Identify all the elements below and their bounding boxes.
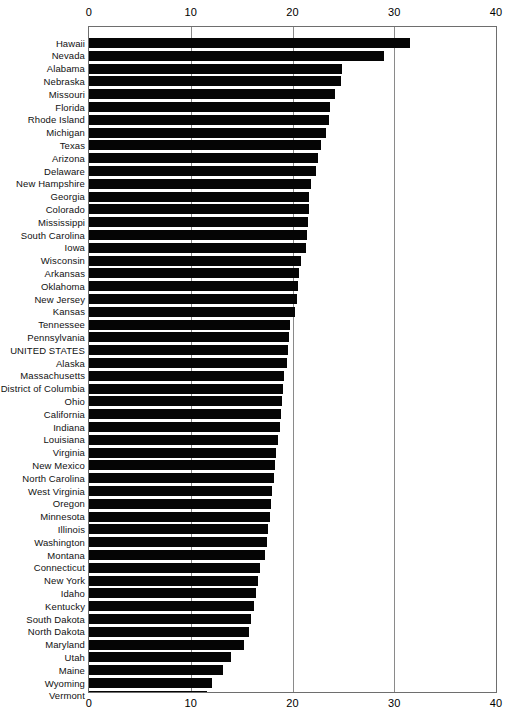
bar-row [89,422,280,432]
bar [89,332,289,342]
category-label: South Dakota [0,614,85,625]
bar-row [89,499,271,509]
x-tick-label: 20 [278,6,308,19]
bar [89,614,251,624]
bar [89,102,330,112]
category-label: Montana [0,550,85,561]
bar-row [89,550,265,560]
bar [89,678,212,688]
x-tick-label: 30 [379,6,409,19]
bar-row [89,601,254,611]
category-label: Kansas [0,306,85,317]
bar [89,524,268,534]
x-tick-label: 10 [176,6,206,19]
category-label: Wisconsin [0,255,85,266]
bar-row [89,332,289,342]
category-label: West Virginia [0,486,85,497]
category-label: Florida [0,102,85,113]
category-label: Colorado [0,204,85,215]
category-label: California [0,409,85,420]
category-label: Michigan [0,127,85,138]
bar [89,166,316,176]
plot-area [88,26,497,693]
bar-row [89,115,329,125]
bar [89,51,384,61]
category-label: North Dakota [0,626,85,637]
x-tick-label: 40 [481,6,511,19]
bar-row [89,396,282,406]
bar [89,576,258,586]
category-label: North Carolina [0,473,85,484]
bar-row [89,448,276,458]
category-label: New Hampshire [0,178,85,189]
x-tick-label: 40 [481,697,511,710]
category-label: Missouri [0,89,85,100]
category-label: Nebraska [0,76,85,87]
bar-row [89,204,309,214]
bar [89,204,309,214]
x-tick-label: 0 [74,697,104,710]
category-label: Tennessee [0,319,85,330]
bar-row [89,128,326,138]
category-label: Alaska [0,358,85,369]
category-label: Louisiana [0,434,85,445]
category-label: Connecticut [0,562,85,573]
category-label: Nevada [0,50,85,61]
category-label: Arkansas [0,268,85,279]
bar-row [89,345,288,355]
bar [89,384,283,394]
category-label: Alabama [0,63,85,74]
bar-row [89,512,270,522]
category-label: Virginia [0,447,85,458]
bar-row [89,38,410,48]
x-axis-labels-bottom: 010203040 [0,697,514,713]
bar-row [89,76,341,86]
bar-row [89,294,297,304]
bar-row [89,102,330,112]
bar-row [89,281,298,291]
category-axis-labels: HawaiiNevadaAlabamaNebraskaMissouriFlori… [0,26,85,693]
bar [89,230,307,240]
bar [89,115,329,125]
bar [89,128,326,138]
bar-row [89,486,272,496]
bar-row [89,614,251,624]
bar-row [89,524,268,534]
category-label: Texas [0,140,85,151]
category-label: Pennsylvania [0,332,85,343]
x-tick-label: 0 [74,6,104,19]
bar [89,256,301,266]
bar [89,396,282,406]
category-label: Mississippi [0,217,85,228]
bar [89,550,265,560]
category-label: Kentucky [0,601,85,612]
category-label: Iowa [0,242,85,253]
bar-row [89,179,311,189]
bar-row [89,652,231,662]
bar [89,294,297,304]
bar [89,217,308,227]
category-label: Oregon [0,498,85,509]
bar [89,38,410,48]
bar [89,563,260,573]
bar-row [89,256,301,266]
bar-row [89,678,212,688]
x-tick-label: 30 [379,697,409,710]
x-tick-label: 20 [278,697,308,710]
bar-row [89,691,207,693]
bar [89,179,311,189]
category-label: Oklahoma [0,281,85,292]
category-label: New York [0,575,85,586]
bar [89,627,249,637]
bar [89,320,290,330]
bar-row [89,473,274,483]
bar-row [89,51,384,61]
bar-row [89,588,256,598]
category-label: Ohio [0,396,85,407]
category-label: New Jersey [0,294,85,305]
category-label: Georgia [0,191,85,202]
category-label: Idaho [0,588,85,599]
category-label: Indiana [0,422,85,433]
bars-container [89,27,496,692]
category-label: Hawaii [0,38,85,49]
